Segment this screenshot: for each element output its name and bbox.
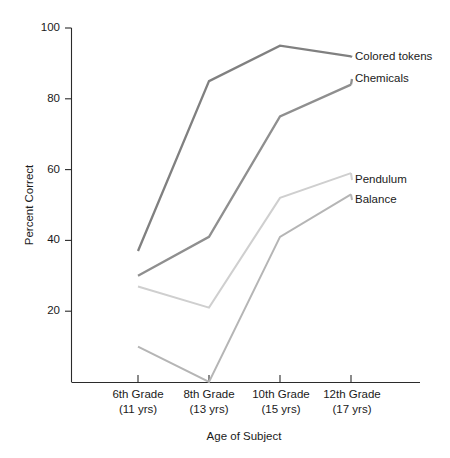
y-tick-group: 100 80 60 40 20 xyxy=(41,21,72,316)
x-tick-label-age-10: (15 yrs) xyxy=(262,403,301,415)
y-tick-label-20: 20 xyxy=(47,304,60,316)
x-tick-label-grade-6: 6th Grade xyxy=(112,388,163,400)
series-leader-balance xyxy=(351,194,352,200)
line-chart-canvas: 100 80 60 40 20 Percent Correct 6th Grad… xyxy=(0,0,450,458)
series-label-pendulum: Pendulum xyxy=(355,173,407,185)
y-tick-label-80: 80 xyxy=(47,92,60,104)
y-tick-label-40: 40 xyxy=(47,233,60,245)
y-axis-title: Percent Correct xyxy=(23,164,35,245)
x-tick-group: 6th Grade (11 yrs) 8th Grade (13 yrs) 10… xyxy=(112,375,380,415)
series-line-pendulum xyxy=(138,173,351,308)
x-axis-title: Age of Subject xyxy=(207,430,283,442)
series-label-chemicals: Chemicals xyxy=(355,72,409,84)
series-line-chemicals xyxy=(138,85,351,276)
y-tick-label-100: 100 xyxy=(41,21,60,33)
series-line-colored-tokens xyxy=(138,46,351,251)
series-line-balance xyxy=(138,194,351,382)
x-tick-label-age-8: (13 yrs) xyxy=(190,403,229,415)
series-leader-pendulum xyxy=(351,173,352,180)
series-leader-chemicals xyxy=(351,79,352,85)
x-tick-label-grade-10: 10th Grade xyxy=(252,388,310,400)
x-tick-label-age-6: (11 yrs) xyxy=(119,403,157,415)
series-label-group: Colored tokens Chemicals Pendulum Balanc… xyxy=(355,50,433,205)
series-label-colored-tokens: Colored tokens xyxy=(355,50,433,62)
chart-figure: 100 80 60 40 20 Percent Correct 6th Grad… xyxy=(0,0,450,458)
series-layer xyxy=(138,46,352,382)
x-tick-label-grade-12: 12th Grade xyxy=(323,388,381,400)
x-tick-label-age-12: (17 yrs) xyxy=(333,403,372,415)
x-tick-label-grade-8: 8th Grade xyxy=(183,388,234,400)
series-leader-colored-tokens xyxy=(351,56,352,57)
y-tick-label-60: 60 xyxy=(47,163,60,175)
series-label-balance: Balance xyxy=(355,193,397,205)
